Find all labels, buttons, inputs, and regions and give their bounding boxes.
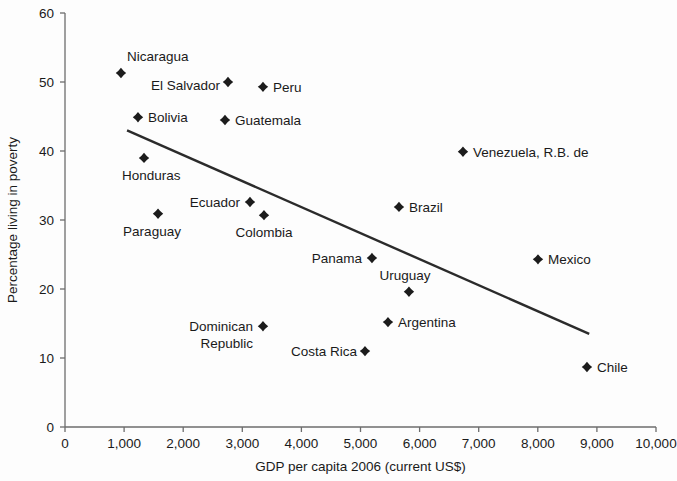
data-point-label: Nicaragua (127, 49, 189, 64)
x-tick-label: 7,000 (462, 436, 496, 451)
data-point-label: Uruguay (379, 268, 430, 283)
data-point-label: Costa Rica (291, 344, 358, 359)
y-tick-label: 40 (39, 144, 54, 159)
regression-trend-line (127, 130, 589, 334)
x-tick-label: 4,000 (285, 436, 319, 451)
scatter-chart-figure: 01,0002,0003,0004,0005,0006,0007,0008,00… (0, 0, 677, 481)
data-point-label: Mexico (548, 252, 591, 267)
axes (65, 13, 656, 427)
data-point-marker (139, 153, 149, 163)
data-point-label: Guatemala (235, 113, 302, 128)
data-point-marker (258, 82, 268, 92)
x-tick-label: 5,000 (344, 436, 378, 451)
data-point-marker (383, 317, 393, 327)
x-tick-label: 6,000 (403, 436, 437, 451)
data-point-label: Dominican (189, 319, 253, 334)
chart-canvas: 01,0002,0003,0004,0005,0006,0007,0008,00… (0, 0, 677, 481)
data-point-label: Republic (200, 336, 253, 351)
x-tick-label: 1,000 (107, 436, 141, 451)
data-point-marker (133, 112, 143, 122)
data-point-label: Venezuela, R.B. de (473, 145, 589, 160)
data-point-label: Paraguay (123, 224, 181, 239)
data-point-label: Colombia (235, 225, 293, 240)
data-point-label: Chile (597, 360, 628, 375)
data-point-label: Brazil (409, 200, 443, 215)
y-tick-label: 30 (39, 213, 54, 228)
data-point-marker (533, 254, 543, 264)
y-axis-title: Percentage living in poverty (5, 137, 20, 303)
y-tick-label: 10 (39, 351, 54, 366)
data-point-marker (258, 321, 268, 331)
x-tick-label: 0 (61, 436, 69, 451)
data-point-marker (153, 209, 163, 219)
data-point-marker (259, 210, 269, 220)
data-point-label: Peru (273, 80, 302, 95)
y-tick-label: 20 (39, 282, 54, 297)
y-tick-label: 60 (39, 6, 54, 21)
data-point-label: Panama (312, 251, 363, 266)
x-tick-label: 9,000 (580, 436, 614, 451)
y-axis-ticks: 0102030405060 (39, 6, 65, 435)
trend-line (127, 130, 589, 334)
data-point-label: Bolivia (148, 110, 188, 125)
data-point-label: Ecuador (190, 195, 241, 210)
x-tick-label: 3,000 (225, 436, 259, 451)
x-tick-label: 2,000 (166, 436, 200, 451)
y-tick-label: 50 (39, 75, 54, 90)
data-point-marker (245, 197, 255, 207)
x-tick-label: 8,000 (521, 436, 555, 451)
y-tick-label: 0 (46, 420, 54, 435)
data-point-marker (223, 77, 233, 87)
data-point-label: El Salvador (151, 78, 221, 93)
data-point-marker (367, 253, 377, 263)
data-point-marker (220, 115, 230, 125)
axis-titles: GDP per capita 2006 (current US$)Percent… (5, 137, 466, 474)
data-points: NicaraguaEl SalvadorPeruBoliviaGuatemala… (116, 49, 628, 375)
x-axis-title: GDP per capita 2006 (current US$) (255, 459, 466, 474)
x-tick-label: 10,000 (635, 436, 676, 451)
data-point-marker (458, 146, 468, 156)
data-point-marker (394, 202, 404, 212)
data-point-marker (404, 287, 414, 297)
data-point-marker (582, 362, 592, 372)
data-point-marker (360, 346, 370, 356)
data-point-marker (116, 68, 126, 78)
x-axis-ticks: 01,0002,0003,0004,0005,0006,0007,0008,00… (61, 427, 676, 451)
data-point-label: Argentina (398, 315, 456, 330)
data-point-label: Honduras (122, 168, 181, 183)
